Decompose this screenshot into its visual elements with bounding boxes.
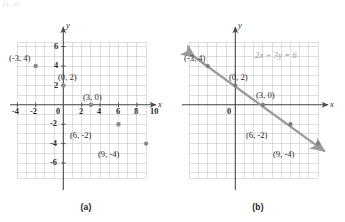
panel-b: x y 0 2x + 3y = 6 (-3, 4) (0, 2) (3, 0) … xyxy=(172,0,344,222)
x-tick-label: 2 xyxy=(79,108,83,116)
point-label: (3, 0) xyxy=(256,91,275,100)
x-tick-label: 4 xyxy=(97,108,101,116)
grid-b xyxy=(189,42,318,178)
x-tick-label: -2 xyxy=(30,108,37,116)
plot-a: x y -4 -2 0 2 4 6 8 10 6 4 2 -2 -4 -6 (-… xyxy=(0,0,172,200)
y-tick-label: 6 xyxy=(54,43,58,51)
x-tick-label: 0 xyxy=(56,108,60,116)
x-tick-label: -4 xyxy=(12,108,19,116)
point-label: (0, 2) xyxy=(229,73,248,82)
y-axis-label-a: y xyxy=(66,21,70,30)
point-label: (9, -4) xyxy=(273,150,294,159)
x-tick-label: 6 xyxy=(116,108,120,116)
x-axis-label-b: x xyxy=(330,100,334,109)
point-marker xyxy=(261,103,265,107)
y-tick-label: -4 xyxy=(50,140,57,148)
point-label: (6, -2) xyxy=(246,131,267,140)
equation-label-b: 2x + 3y = 6 xyxy=(255,52,297,60)
panel-a: x y -4 -2 0 2 4 6 8 10 6 4 2 -2 -4 -6 (-… xyxy=(0,0,172,222)
point-label: (-3, 4) xyxy=(9,54,30,63)
panel-caption-a: (a) xyxy=(0,202,172,212)
point-marker xyxy=(34,64,38,68)
point-marker xyxy=(116,122,120,126)
point-marker xyxy=(206,64,210,68)
y-tick-label: -2 xyxy=(50,120,57,128)
x-tick-label: 8 xyxy=(134,108,138,116)
figure-root: (x, y) xyxy=(0,0,345,222)
x-axis-label-a: x xyxy=(158,100,162,109)
point-label: (3, 0) xyxy=(83,93,102,102)
point-label: (9, -4) xyxy=(98,150,119,159)
point-label: (0, 2) xyxy=(58,73,77,82)
point-marker xyxy=(89,103,93,107)
origin-label-b: 0 xyxy=(227,108,231,116)
point-marker xyxy=(144,141,148,145)
point-marker xyxy=(316,142,320,146)
plot-b-svg xyxy=(172,0,344,200)
point-marker xyxy=(61,83,65,87)
y-tick-label: 4 xyxy=(54,62,58,70)
y-tick-label: -6 xyxy=(50,159,57,167)
y-axis-label-b: y xyxy=(238,21,242,30)
y-tick-label: 2 xyxy=(54,82,58,90)
panel-caption-b: (b) xyxy=(172,202,344,212)
plot-b: x y 0 2x + 3y = 6 (-3, 4) (0, 2) (3, 0) … xyxy=(172,0,344,200)
point-marker xyxy=(233,83,237,87)
point-label: (-3, 4) xyxy=(184,54,205,63)
point-marker xyxy=(288,122,292,126)
point-label: (6, -2) xyxy=(70,131,91,140)
x-tick-label: 10 xyxy=(150,108,158,116)
